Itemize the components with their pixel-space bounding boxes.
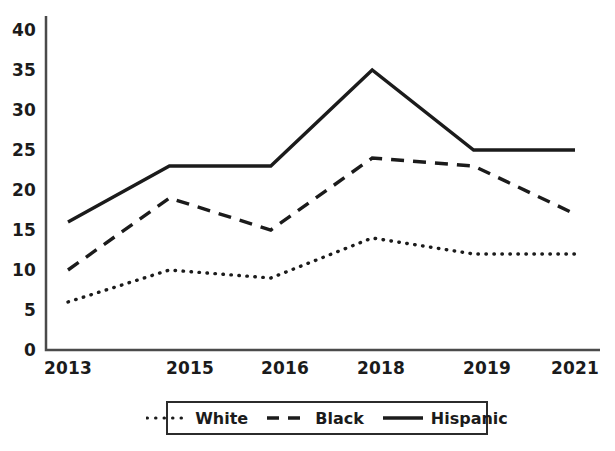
- series-layer: [68, 70, 575, 302]
- legend-label-black: Black: [315, 409, 364, 428]
- ytick-label-40: 40: [2, 20, 36, 40]
- series-line-white: [68, 238, 575, 302]
- legend-swatch-solid-icon: [382, 413, 424, 423]
- line-chart: 40 35 30 25 20 15 10 5 0 2013 2015 2016 …: [0, 0, 615, 451]
- xtick-label-2018: 2018: [346, 358, 416, 378]
- ytick-label-25: 25: [2, 140, 36, 160]
- xtick-label-2019: 2019: [452, 358, 522, 378]
- plot-area: [0, 0, 615, 451]
- series-line-hispanic: [68, 70, 575, 222]
- legend-swatch-dashed-icon: [266, 413, 308, 423]
- ytick-label-15: 15: [2, 220, 36, 240]
- legend-label-hispanic: Hispanic: [431, 409, 508, 428]
- legend-item-black[interactable]: Black: [257, 409, 373, 428]
- ytick-label-35: 35: [2, 60, 36, 80]
- axis-spine: [46, 16, 600, 350]
- legend-item-hispanic[interactable]: Hispanic: [373, 409, 517, 428]
- ytick-label-20: 20: [2, 180, 36, 200]
- xtick-label-2013: 2013: [33, 358, 103, 378]
- xtick-label-2021: 2021: [540, 358, 610, 378]
- ytick-label-10: 10: [2, 260, 36, 280]
- xtick-label-2016: 2016: [250, 358, 320, 378]
- ytick-label-30: 30: [2, 100, 36, 120]
- ytick-label-0: 0: [2, 340, 36, 360]
- xtick-label-2015: 2015: [155, 358, 225, 378]
- legend-swatch-dotted-icon: [146, 413, 188, 423]
- series-line-black: [68, 158, 575, 270]
- legend-label-white: White: [195, 409, 248, 428]
- legend: White Black Hispanic: [166, 401, 488, 435]
- legend-item-white[interactable]: White: [137, 409, 257, 428]
- ytick-label-5: 5: [2, 300, 36, 320]
